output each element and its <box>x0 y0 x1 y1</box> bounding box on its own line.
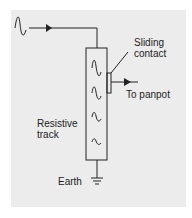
output-label: To panpot <box>126 89 170 100</box>
track-label-line2: track <box>37 129 78 140</box>
sliding-contact-leader <box>111 52 128 73</box>
earth-label: Earth <box>58 176 82 187</box>
input-arrow-icon <box>46 24 52 32</box>
track-wave-icon-3 <box>92 112 101 121</box>
resistive-track-label: Resistive track <box>37 118 78 140</box>
track-wave-icon-1 <box>92 60 101 76</box>
output-arrow-icon <box>124 78 131 86</box>
sliding-contact <box>107 73 111 93</box>
input-sine-wave-icon <box>15 17 26 35</box>
track-wave-icon-4 <box>92 139 101 145</box>
contact-label-line2: contact <box>134 48 166 59</box>
sliding-label-line1: Sliding <box>134 37 166 48</box>
potentiometer-diagram <box>0 0 192 218</box>
resistive-label-line1: Resistive <box>37 118 78 129</box>
track-wave-icon-2 <box>92 87 101 99</box>
sliding-contact-label: Sliding contact <box>134 37 166 59</box>
